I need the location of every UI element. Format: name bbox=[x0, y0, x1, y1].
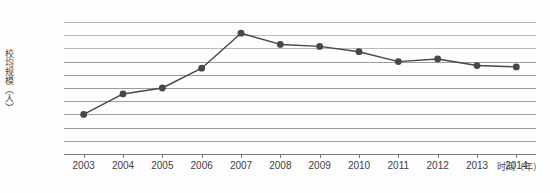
x-axis-tick bbox=[320, 154, 321, 158]
x-axis-tick-label: 2010 bbox=[339, 160, 379, 171]
data-point-marker bbox=[356, 48, 363, 55]
x-axis-tick bbox=[123, 154, 124, 158]
data-point-marker bbox=[395, 58, 402, 65]
data-point-marker bbox=[434, 56, 441, 63]
x-axis-tick bbox=[162, 154, 163, 158]
x-axis-title: 时间（年） bbox=[497, 160, 542, 173]
x-axis-tick-label: 2013 bbox=[457, 160, 497, 171]
data-point-marker bbox=[316, 43, 323, 50]
x-axis-tick-label: 2012 bbox=[418, 160, 458, 171]
series-line bbox=[84, 33, 517, 114]
x-axis-tick-label: 2007 bbox=[221, 160, 261, 171]
x-axis-tick bbox=[477, 154, 478, 158]
x-axis-tick bbox=[516, 154, 517, 158]
x-axis-tick-label: 2008 bbox=[260, 160, 300, 171]
x-axis-tick-label: 2009 bbox=[300, 160, 340, 171]
data-series-line bbox=[64, 22, 536, 154]
data-point-marker bbox=[277, 41, 284, 48]
x-axis-tick-label: 2011 bbox=[378, 160, 418, 171]
x-axis-tick bbox=[398, 154, 399, 158]
x-axis-tick bbox=[359, 154, 360, 158]
x-axis-line bbox=[64, 154, 536, 155]
x-axis-tick-label: 2004 bbox=[103, 160, 143, 171]
x-axis-tick bbox=[202, 154, 203, 158]
data-point-marker bbox=[238, 30, 245, 37]
data-point-marker bbox=[474, 62, 481, 69]
data-point-marker bbox=[513, 63, 520, 70]
data-point-marker bbox=[120, 91, 127, 98]
line-chart: 校均规模（人） 44004200400038003600340032003000… bbox=[0, 0, 550, 193]
x-axis-tick bbox=[241, 154, 242, 158]
data-point-marker bbox=[159, 85, 166, 92]
x-axis-tick-label: 2005 bbox=[142, 160, 182, 171]
plot-area: 4400420040003800360034003200300028002600… bbox=[64, 22, 536, 154]
y-axis-title: 校均规模（人） bbox=[1, 0, 19, 160]
x-axis-tick bbox=[438, 154, 439, 158]
data-point-marker bbox=[198, 65, 205, 72]
x-axis-tick-label: 2003 bbox=[64, 160, 104, 171]
x-axis-tick bbox=[280, 154, 281, 158]
x-axis-tick-label: 2006 bbox=[182, 160, 222, 171]
data-point-marker bbox=[80, 111, 87, 118]
x-axis-tick bbox=[84, 154, 85, 158]
